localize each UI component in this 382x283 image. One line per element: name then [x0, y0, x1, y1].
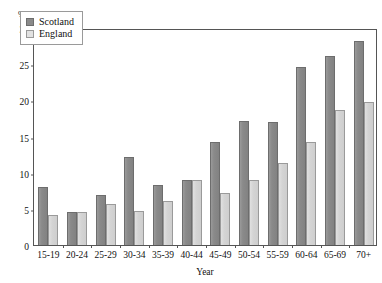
- plot-area: 051015202530 15-1920-2425-2930-3435-3940…: [33, 29, 377, 246]
- bar-scotland-30-34: [124, 157, 134, 245]
- x-axis-tickmark: [177, 245, 178, 248]
- x-axis-tick-label: 60-64: [295, 250, 317, 261]
- bar-scotland-35-39: [153, 185, 163, 245]
- bar-england-40-44: [192, 180, 202, 245]
- bar-group: [263, 30, 292, 245]
- bar-england-35-39: [163, 201, 173, 245]
- bar-group: [149, 30, 178, 245]
- bar-scotland-60-64: [296, 67, 306, 245]
- bar-england-55-59: [278, 163, 288, 245]
- bar-group: [235, 30, 264, 245]
- x-axis-tick-label: 65-69: [324, 250, 346, 261]
- bar-scotland-40-44: [182, 180, 192, 245]
- bars-container: [34, 30, 376, 245]
- x-axis-tickmark: [63, 245, 64, 248]
- x-axis-tick-label: 25-29: [95, 250, 117, 261]
- chart-title-clipped: [0, 0, 382, 3]
- bar-scotland-50-54: [239, 121, 249, 245]
- bar-england-25-29: [106, 204, 116, 245]
- x-axis-tickmark: [120, 245, 121, 248]
- x-axis-tick-label: 70+: [356, 250, 371, 261]
- bar-chart: % 051015202530 15-1920-2425-2930-3435-39…: [0, 0, 382, 283]
- x-axis-tickmark: [91, 245, 92, 248]
- legend-item-england[interactable]: England: [26, 28, 74, 40]
- x-axis-tickmark: [206, 245, 207, 248]
- legend-swatch-icon: [26, 18, 34, 26]
- legend-item-label: Scotland: [39, 16, 74, 28]
- x-axis-tickmark: [263, 245, 264, 248]
- bar-england-65-69: [335, 110, 345, 245]
- bar-england-20-24: [77, 212, 87, 245]
- bar-england-15-19: [48, 215, 58, 245]
- bar-england-30-34: [134, 211, 144, 245]
- x-axis-title: Year: [33, 267, 377, 278]
- bar-england-60-64: [306, 142, 316, 245]
- bar-group: [292, 30, 321, 245]
- x-axis-tickmark: [321, 245, 322, 248]
- x-axis-tick-label: 20-24: [66, 250, 88, 261]
- x-axis-tickmark: [149, 245, 150, 248]
- bar-group: [120, 30, 149, 245]
- bar-scotland-25-29: [96, 195, 106, 245]
- bar-group: [63, 30, 92, 245]
- bar-england-50-54: [249, 180, 259, 245]
- x-axis-tick-label: 35-39: [152, 250, 174, 261]
- x-axis-tick-label: 55-59: [267, 250, 289, 261]
- x-axis-tick-label: 50-54: [238, 250, 260, 261]
- legend-item-scotland[interactable]: Scotland: [26, 16, 74, 28]
- bar-group: [206, 30, 235, 245]
- chart-legend: ScotlandEngland: [20, 11, 83, 45]
- bar-scotland-70+: [354, 41, 364, 245]
- bar-scotland-45-49: [210, 142, 220, 245]
- legend-item-label: England: [39, 28, 72, 40]
- x-axis-tick-label: 45-49: [209, 250, 231, 261]
- x-axis-tick-label: 40-44: [181, 250, 203, 261]
- y-axis-tick-label: 0: [24, 242, 34, 252]
- bar-scotland-15-19: [38, 187, 48, 245]
- x-axis-tick-label: 30-34: [123, 250, 145, 261]
- x-axis-tickmark: [235, 245, 236, 248]
- bar-group: [34, 30, 63, 245]
- bar-england-45-49: [220, 193, 230, 245]
- bar-scotland-20-24: [67, 212, 77, 245]
- x-axis-tick-label: 15-19: [37, 250, 59, 261]
- bar-group: [321, 30, 350, 245]
- bar-england-70+: [364, 102, 374, 245]
- bar-group: [177, 30, 206, 245]
- bar-scotland-65-69: [325, 56, 335, 246]
- legend-swatch-icon: [26, 30, 34, 38]
- x-axis-tickmark: [349, 245, 350, 248]
- bar-group: [349, 30, 378, 245]
- x-axis-tickmark: [292, 245, 293, 248]
- bar-group: [91, 30, 120, 245]
- bar-scotland-55-59: [268, 122, 278, 245]
